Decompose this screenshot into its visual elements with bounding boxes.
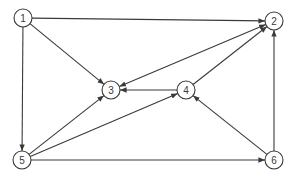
edge-6-to-4	[193, 96, 267, 155]
edge-4-to-2	[193, 27, 267, 85]
edges-layer	[22, 18, 274, 160]
node-label: 1	[20, 13, 26, 24]
edge-1-to-3	[30, 24, 104, 85]
edge-1-to-2	[32, 18, 265, 21]
directed-graph: 123456	[0, 0, 296, 178]
node-label: 5	[19, 155, 25, 166]
edge-2-to-3	[119, 25, 265, 87]
edge-5-to-3	[29, 96, 104, 155]
node-label: 4	[183, 85, 189, 96]
edge-5-to-4	[30, 94, 177, 157]
node-label: 6	[271, 155, 277, 166]
edge-1-to-5	[22, 27, 23, 151]
node-5: 5	[13, 151, 31, 169]
node-6: 6	[265, 151, 283, 169]
node-3: 3	[102, 81, 120, 99]
node-2: 2	[265, 12, 283, 30]
node-label: 2	[271, 16, 277, 27]
node-label: 3	[108, 85, 114, 96]
node-1: 1	[14, 9, 32, 27]
nodes-layer: 123456	[13, 9, 283, 169]
node-4: 4	[177, 81, 195, 99]
